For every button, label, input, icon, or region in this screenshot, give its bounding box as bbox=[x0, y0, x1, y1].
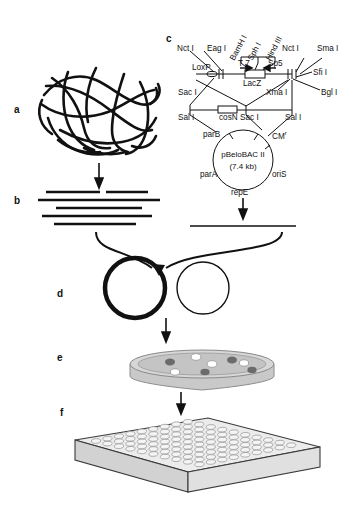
figure-bac-library-construction: a b c d e f bbox=[0, 0, 353, 508]
panel-f-microtiter-plate bbox=[0, 0, 353, 508]
